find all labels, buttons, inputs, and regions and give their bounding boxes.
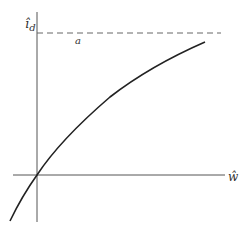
- asymptote-label: a: [75, 35, 81, 46]
- response-curve: [10, 42, 205, 221]
- y-axis-label: îd: [25, 16, 36, 33]
- x-axis-label: ŵ: [228, 170, 239, 184]
- diagram-canvas: îd a ŵ: [0, 0, 249, 231]
